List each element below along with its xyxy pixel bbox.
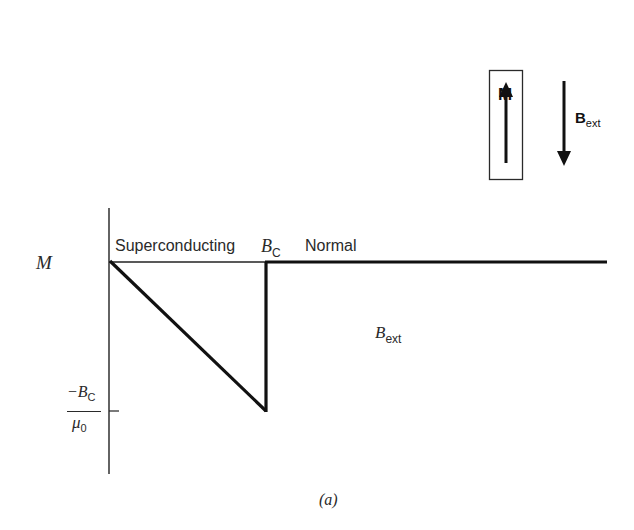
y-tick-numerator-main: −B [67, 383, 88, 400]
figure-caption: (a) [319, 492, 338, 508]
y-tick-numerator: −BC [67, 384, 96, 400]
y-tick-numerator-sub: C [88, 391, 96, 403]
y-tick-fraction-bar [67, 411, 101, 412]
critical-field-sub: C [272, 246, 281, 260]
magnetization-diagram: M Bext M Superconducting BC Normal Bext … [0, 0, 634, 530]
critical-field-main: B [261, 236, 272, 256]
x-axis-label-sub: ext [385, 332, 401, 346]
meissner-diagonal-line [110, 261, 266, 411]
legend-field-label-sub: ext [586, 117, 601, 129]
legend-magnetization-label: M [498, 86, 512, 103]
y-tick-denominator-sub: 0 [81, 422, 87, 434]
critical-field-label: BC [261, 237, 281, 255]
legend-field-label-main: B [575, 109, 586, 126]
y-axis-label: M [36, 253, 52, 272]
y-tick-denominator: μ0 [72, 414, 87, 431]
x-axis-label-main: B [375, 323, 385, 342]
field-arrow-down-icon [557, 151, 571, 166]
y-tick-denominator-main: μ [72, 413, 81, 432]
legend-field-label: Bext [575, 110, 601, 125]
x-axis-label: Bext [375, 324, 401, 341]
diagram-lines [0, 0, 634, 530]
superconducting-label: Superconducting [115, 238, 235, 254]
normal-label: Normal [305, 238, 357, 254]
